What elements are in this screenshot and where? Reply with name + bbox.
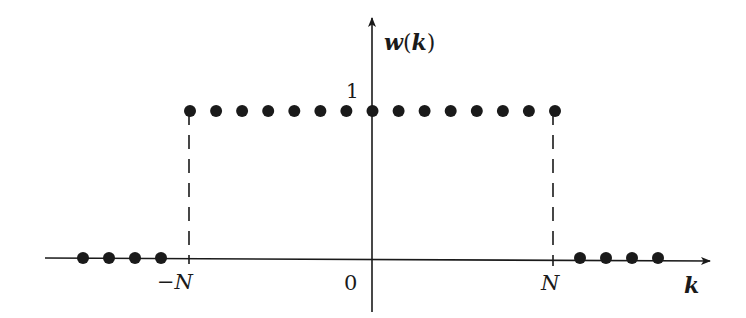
y-axis-label-close-paren: ) (427, 30, 436, 55)
sample-dot (367, 105, 379, 117)
sample-dot (103, 252, 115, 264)
sample-dot (393, 105, 405, 117)
sample-dot (626, 252, 638, 264)
y-axis-label-arg: k (412, 29, 427, 55)
sample-dot (262, 105, 274, 117)
sample-dot (574, 252, 586, 264)
sample-dot (600, 252, 612, 264)
sample-dot (288, 105, 300, 117)
sample-dot (340, 105, 352, 117)
y-axis-label-open-paren: ( (403, 30, 412, 55)
y-tick-label-1: 1 (346, 79, 359, 103)
x-tick-label-neg-n: −N (157, 270, 194, 294)
sample-dot (184, 105, 196, 117)
sample-dot (471, 105, 483, 117)
sample-dot (419, 105, 431, 117)
sample-dot (549, 105, 561, 117)
y-axis-label-fn: w (384, 29, 404, 55)
window-function-diagram: 1 w(k) −N 0 N k (0, 0, 746, 318)
y-axis-label: w(k) (384, 29, 435, 55)
sample-dot (236, 105, 248, 117)
sample-dot (129, 252, 141, 264)
sample-dot (523, 105, 535, 117)
sample-dot (77, 252, 89, 264)
sample-dot (445, 105, 457, 117)
x-tick-label-zero: 0 (344, 271, 357, 295)
sample-dot (652, 252, 664, 264)
sample-dot (210, 105, 222, 117)
sample-points (77, 105, 664, 264)
x-axis-label: k (684, 272, 699, 298)
sample-dot (497, 105, 509, 117)
sample-dot (155, 252, 167, 264)
x-tick-label-pos-n: N (540, 271, 560, 295)
sample-dot (314, 105, 326, 117)
